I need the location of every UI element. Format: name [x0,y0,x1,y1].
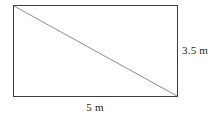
geometry-figure: 3.5 m 5 m [0,0,222,120]
height-dimension-label: 3.5 m [182,45,208,56]
width-dimension-label: 5 m [0,102,190,113]
